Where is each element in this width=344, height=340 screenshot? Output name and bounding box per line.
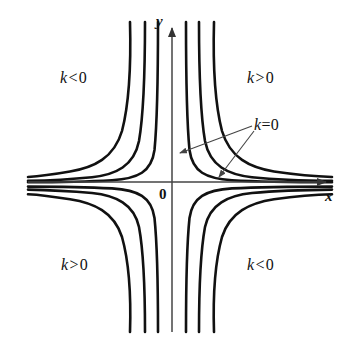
y-axis-label: y <box>156 14 163 29</box>
quadrant-3-value: 0 <box>80 256 88 273</box>
quadrant-2-k: k <box>60 69 67 86</box>
figure-canvas <box>0 0 344 340</box>
curve-k-small-q1 <box>186 22 332 182</box>
quadrant-2-label: k<0 <box>60 70 87 86</box>
origin-label: 0 <box>159 187 167 202</box>
quadrant-1-operator: > <box>255 69 264 86</box>
quadrant-3-label: k>0 <box>61 257 88 273</box>
quadrant-4-value: 0 <box>266 256 274 273</box>
hyperbola-family-figure: k<0 k>0 k>0 k<0 k=0 y x 0 <box>0 0 344 340</box>
quadrant-4-operator: < <box>255 256 264 273</box>
k-equals-zero-label: k=0 <box>254 117 279 133</box>
curves-quadrant-1 <box>186 22 332 182</box>
quadrant-4-label: k<0 <box>247 257 274 273</box>
k-zero-operator: = <box>261 116 270 133</box>
curve-k-small-q3 <box>28 187 158 332</box>
curve-k-small-q2 <box>28 22 158 182</box>
quadrant-2-value: 0 <box>79 69 87 86</box>
curves-quadrant-2 <box>28 22 158 182</box>
k-zero-value: 0 <box>271 116 279 133</box>
k-zero-leader-arrows <box>180 126 254 177</box>
quadrant-3-operator: > <box>69 256 78 273</box>
quadrant-4-k: k <box>247 256 254 273</box>
k-zero-arrow-to-y-axis <box>180 126 252 153</box>
quadrant-2-operator: < <box>68 69 77 86</box>
quadrant-1-label: k>0 <box>247 70 274 86</box>
quadrant-3-k: k <box>61 256 68 273</box>
curve-k-mid-q1 <box>199 22 332 181</box>
curve-k-large-q2 <box>28 22 130 177</box>
quadrant-1-value: 0 <box>266 69 274 86</box>
quadrant-1-k: k <box>247 69 254 86</box>
curve-k-large-q1 <box>214 22 332 177</box>
curves-quadrant-3 <box>28 187 158 332</box>
x-axis-label: x <box>325 189 333 204</box>
